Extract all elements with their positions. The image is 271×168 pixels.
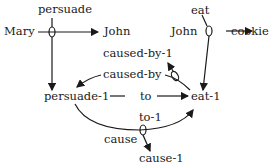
relation-eat: eat [191,5,209,17]
edge-cause-cause1 [143,135,150,151]
node-john-1: John [104,26,130,38]
edge-eat1-causedby [165,75,190,90]
semantic-network-diagram: persuade Mary John eat John cookie cause… [0,0,271,168]
relation-cause: cause [104,134,137,146]
node-john-2: John [171,26,197,38]
edge-cause-arc [75,104,193,130]
node-eat-1: eat-1 [191,91,221,103]
causedby-node-ring [170,70,180,82]
node-mary: Mary [4,26,35,38]
edge-causedby-persuade1 [77,75,101,87]
node-cause-1: cause-1 [139,153,184,165]
edge-causedby-causedby1 [168,63,173,71]
relation-to: to [140,91,152,103]
relation-caused-by-1: caused-by-1 [103,48,173,60]
eat-node-ring [206,26,212,36]
node-cookie: cookie [231,26,269,38]
node-persuade-1: persuade-1 [44,91,109,103]
relation-caused-by: caused-by [103,69,162,81]
relation-persuade: persuade [38,4,92,16]
edge-eat-eat1 [203,36,209,90]
relation-to-1: to-1 [139,112,162,124]
